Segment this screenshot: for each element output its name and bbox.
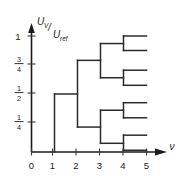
x-tick-label-5: 5 xyxy=(144,160,149,171)
x-axis-arrowhead xyxy=(155,148,167,155)
y-axis-title-slash: / xyxy=(47,22,52,33)
y-tick-label-3-4-numerator: 3 xyxy=(17,55,21,64)
y-tick-label-1-2: 1 2 xyxy=(15,84,24,103)
x-tick-label-2: 2 xyxy=(73,160,78,171)
y-axis-title-denominator-subscript: ref xyxy=(60,35,69,42)
y-tick-label-1-4-numerator: 1 xyxy=(17,113,21,122)
x-tick-label-3: 3 xyxy=(97,160,102,171)
y-tick-label-1-4-denominator: 4 xyxy=(17,123,21,132)
bifurcation-tree xyxy=(55,36,147,152)
x-tick-labels: 0 1 2 3 4 5 xyxy=(29,160,149,171)
y-axis-arrowhead xyxy=(28,23,35,33)
y-tick-labels: 1 3 4 1 2 1 4 xyxy=(15,31,24,132)
y-tick-label-3-4: 3 4 xyxy=(15,55,24,74)
bifurcation-diagram: 1 3 4 1 2 1 4 U V / U ref xyxy=(0,0,192,184)
x-tick-label-4: 4 xyxy=(120,160,125,171)
x-axis-group xyxy=(32,148,168,155)
x-tick-label-1: 1 xyxy=(50,160,55,171)
x-axis-title: ν xyxy=(170,141,175,152)
y-tick-label-3-4-denominator: 4 xyxy=(17,65,21,74)
y-tick-label-1-2-numerator: 1 xyxy=(17,84,21,93)
y-axis-group xyxy=(28,23,36,152)
y-tick-label-1-2-denominator: 2 xyxy=(17,94,21,103)
y-axis-title: U V / U ref xyxy=(37,16,69,42)
y-tick-label-1-4: 1 4 xyxy=(15,113,24,132)
y-tick-label-1: 1 xyxy=(15,31,20,42)
x-tick-label-0: 0 xyxy=(29,160,34,171)
